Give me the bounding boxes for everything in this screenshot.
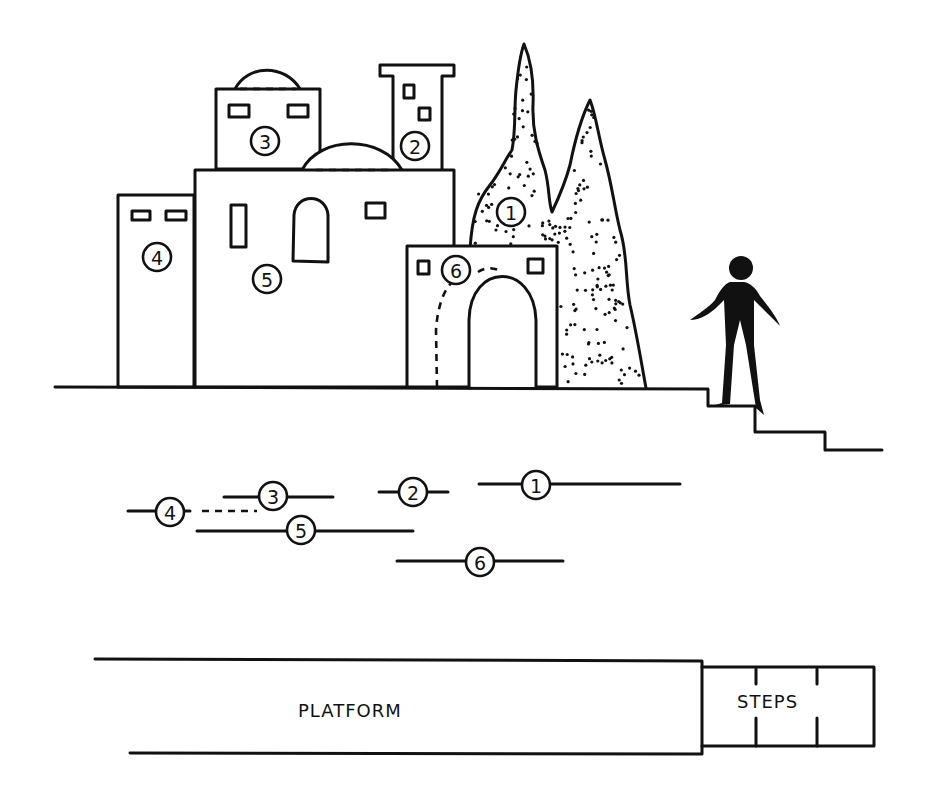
plan-marker-4: 4 xyxy=(156,498,184,526)
ground-plan: 4 3 2 1 5 6 xyxy=(128,471,680,576)
platform-label: PLATFORM xyxy=(298,700,402,721)
piece-label-6: 6 xyxy=(442,256,470,284)
plan-marker-2: 2 xyxy=(399,478,427,506)
building-4 xyxy=(118,195,194,387)
piece-label-5: 5 xyxy=(253,265,281,293)
person-silhouette xyxy=(690,256,780,415)
steps-label: STEPS xyxy=(737,691,798,712)
plan-marker-5: 5 xyxy=(287,516,315,544)
svg-text:3: 3 xyxy=(267,486,279,508)
piece-label-4: 4 xyxy=(143,243,171,271)
plan-marker-1: 1 xyxy=(522,471,550,499)
elevation-view: 1 2 3 4 5 6 xyxy=(55,44,882,450)
svg-text:6: 6 xyxy=(474,552,486,574)
plan-marker-3: 3 xyxy=(259,482,287,510)
svg-text:1: 1 xyxy=(505,202,517,224)
piece-label-3: 3 xyxy=(251,127,279,155)
plan-marker-6: 6 xyxy=(466,548,494,576)
floor-plan: PLATFORM STEPS xyxy=(95,659,874,754)
svg-text:4: 4 xyxy=(164,502,176,524)
svg-text:2: 2 xyxy=(407,482,419,504)
gate-arch xyxy=(469,277,536,388)
piece-label-1: 1 xyxy=(497,198,525,226)
stage-set-diagram: 1 2 3 4 5 6 4 3 2 1 5 6 PLATFORM STEPS xyxy=(0,0,925,797)
svg-text:4: 4 xyxy=(151,247,163,269)
svg-text:1: 1 xyxy=(530,475,542,497)
piece-label-2: 2 xyxy=(401,132,429,160)
svg-text:5: 5 xyxy=(295,520,307,542)
dome-3 xyxy=(235,70,300,89)
svg-text:5: 5 xyxy=(261,269,273,291)
svg-text:3: 3 xyxy=(259,131,271,153)
svg-text:6: 6 xyxy=(450,260,462,282)
svg-text:2: 2 xyxy=(409,136,421,158)
